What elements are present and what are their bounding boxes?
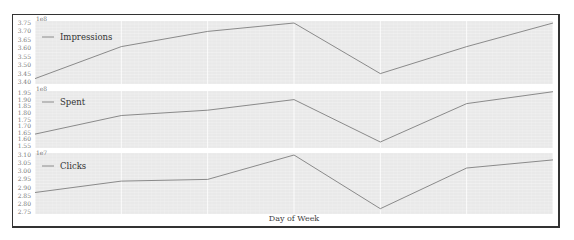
y-tick-label: 1.60 xyxy=(18,135,32,142)
x-axis-label: Day of Week xyxy=(269,214,320,223)
impressions-y-multiplier: 1e8 xyxy=(36,15,47,22)
spent-legend-label: Spent xyxy=(60,97,86,107)
y-tick-label: 1.90 xyxy=(18,96,32,103)
y-tick-label: 2.90 xyxy=(18,184,32,191)
y-tick-label: 2.85 xyxy=(18,192,32,199)
y-tick-label: 3.70 xyxy=(18,27,32,34)
y-tick-label: 2.80 xyxy=(18,200,32,207)
y-tick-label: 3.60 xyxy=(18,44,32,51)
chart-canvas: 3.403.453.503.553.603.653.703.75 1.551.6… xyxy=(0,0,574,240)
y-tick-label: 3.50 xyxy=(18,61,32,68)
y-tick-label: 3.55 xyxy=(18,53,32,60)
y-tick-label: 2.75 xyxy=(18,208,32,215)
y-tick-label: 2.95 xyxy=(18,175,32,182)
y-tick-label: 3.40 xyxy=(18,78,32,85)
clicks-legend-label: Clicks xyxy=(60,161,86,171)
y-tick-label: 1.65 xyxy=(18,129,32,136)
y-tick-label: 3.05 xyxy=(18,159,32,166)
y-tick-label: 1.70 xyxy=(18,122,32,129)
impressions-panel: 3.403.453.503.553.603.653.703.75 xyxy=(18,19,553,85)
clicks-y-multiplier: 1e7 xyxy=(36,149,47,156)
y-tick-label: 1.95 xyxy=(18,89,32,96)
spent-panel: 1.551.601.651.701.751.801.851.901.95 xyxy=(18,89,553,149)
y-tick-label: 3.45 xyxy=(18,70,32,77)
clicks-panel: 2.752.802.852.902.953.003.053.10 xyxy=(18,151,553,215)
impressions-legend-label: Impressions xyxy=(60,32,112,42)
y-tick-label: 1.85 xyxy=(18,102,32,109)
y-tick-label: 3.75 xyxy=(18,19,32,26)
y-tick-label: 1.55 xyxy=(18,142,32,149)
y-tick-label: 1.75 xyxy=(18,116,32,123)
spent-y-multiplier: 1e8 xyxy=(36,85,47,92)
y-tick-label: 3.00 xyxy=(18,167,32,174)
y-tick-label: 3.65 xyxy=(18,36,32,43)
y-tick-label: 1.80 xyxy=(18,109,32,116)
y-tick-label: 3.10 xyxy=(18,151,32,158)
